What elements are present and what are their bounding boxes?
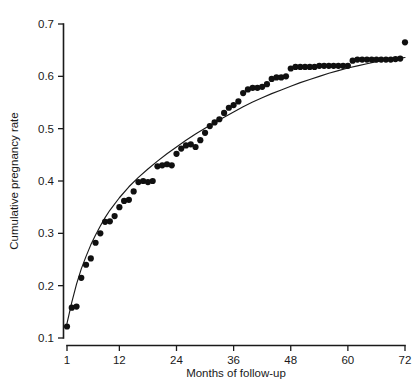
y-tick-label: 0.6 — [38, 70, 54, 82]
x-tick-label: 1 — [64, 354, 70, 366]
x-axis-title: Months of follow-up — [186, 367, 286, 379]
data-point — [169, 162, 175, 168]
data-point — [264, 81, 270, 87]
chart-figure: 0.10.20.30.40.50.60.7 1122436486072 Mont… — [0, 0, 420, 390]
data-point — [112, 213, 118, 219]
y-axis-title: Cumulative pregnancy rate — [8, 112, 20, 249]
scatter-plot-canvas: 0.10.20.30.40.50.60.7 1122436486072 Mont… — [0, 0, 420, 390]
data-point — [131, 188, 137, 194]
y-tick-label: 0.4 — [38, 175, 55, 187]
data-point — [221, 110, 227, 116]
y-tick-label: 0.7 — [38, 18, 54, 30]
x-tick-label: 72 — [399, 354, 412, 366]
data-point — [173, 151, 179, 157]
data-point — [107, 218, 113, 224]
data-point — [202, 130, 208, 136]
y-tick-label: 0.3 — [38, 227, 54, 239]
data-point — [192, 144, 198, 150]
y-tick-label: 0.2 — [38, 280, 54, 292]
y-axis-group: 0.10.20.30.40.50.60.7 — [38, 18, 64, 344]
data-point — [216, 116, 222, 122]
data-point — [92, 240, 98, 246]
data-point — [197, 137, 203, 143]
data-points-group — [64, 39, 408, 329]
data-point — [283, 73, 289, 79]
x-tick-label: 12 — [113, 354, 126, 366]
data-point — [78, 275, 84, 281]
data-point — [397, 55, 403, 61]
x-axis-group: 1122436486072 — [64, 346, 412, 367]
data-point — [97, 230, 103, 236]
data-point — [345, 63, 351, 69]
data-point — [88, 255, 94, 261]
fitted-model-curve — [67, 57, 405, 323]
data-point — [73, 304, 79, 310]
data-point — [235, 98, 241, 104]
data-point — [150, 178, 156, 184]
data-point — [116, 204, 122, 210]
x-axis-ticks — [67, 346, 405, 352]
y-tick-label: 0.5 — [38, 123, 54, 135]
data-point — [64, 323, 70, 329]
x-tick-label: 60 — [341, 354, 354, 366]
y-axis-ticks — [58, 24, 64, 338]
x-tick-label: 48 — [284, 354, 297, 366]
x-tick-label: 36 — [227, 354, 240, 366]
x-tick-label: 24 — [170, 354, 183, 366]
x-axis-tick-labels: 1122436486072 — [64, 354, 412, 366]
y-tick-label: 0.1 — [38, 332, 54, 344]
data-point — [83, 262, 89, 268]
data-point — [126, 197, 132, 203]
y-axis-tick-labels: 0.10.20.30.40.50.60.7 — [38, 18, 55, 344]
data-point — [402, 39, 408, 45]
